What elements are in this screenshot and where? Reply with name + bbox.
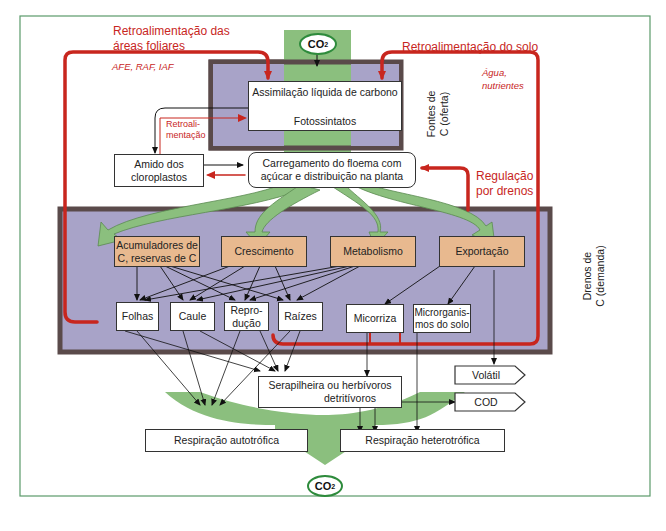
leaf-area-params: AFE, RAF, IAF	[112, 60, 174, 73]
sink-category-growth: Crescimento	[221, 236, 307, 267]
soil-microorganisms-box: Microrganis-mos do solo	[413, 304, 471, 333]
doc-label: COD	[455, 393, 517, 411]
organ-leaves: Folhas	[116, 302, 159, 331]
sinks-side-label: Drenos de C (demanda)	[581, 221, 609, 331]
phloem-loading-box: Carregamento do floema comaçúcar e distr…	[248, 152, 416, 188]
starch-box: Amido doscloroplastos	[114, 154, 204, 187]
sink-regulation-label: Regulação por drenos	[476, 169, 533, 199]
heterotrophic-respiration-box: Respiração heterotrófica	[340, 429, 505, 452]
sink-category-export: Exportação	[439, 236, 525, 267]
mycorrhiza-box: Micorriza	[346, 304, 404, 333]
organ-stem: Caule	[170, 302, 215, 331]
co2-input-badge: CO2	[299, 33, 337, 55]
soil-feedback-label: Retroalimentação do solo	[402, 40, 538, 55]
autotrophic-respiration-box: Respiração autotrófica	[145, 429, 308, 452]
sink-category-metabolism: Metabolismo	[330, 236, 416, 267]
photosynthates-label: Fotossintatos	[248, 114, 402, 128]
volatile-label: Volátil	[455, 366, 517, 384]
organ-roots: Raízes	[278, 302, 323, 331]
sink-category-reserves: Acumuladores deC, reservas de C	[114, 236, 200, 267]
leaf-area-feedback-label: Retroalimentação das áreas foliares	[113, 24, 230, 54]
organ-reproduction: Repro-dução	[224, 302, 269, 331]
internal-feedback-label: Retroali- mentação	[166, 119, 206, 141]
soil-params: Água, nutrientes	[482, 66, 524, 92]
sources-side-label: Fontes de C (oferta)	[425, 69, 453, 159]
litter-herbivores-box: Serapilheira ou herbívorosdetritívoros	[258, 376, 402, 408]
co2-output-badge: CO2	[307, 475, 343, 497]
